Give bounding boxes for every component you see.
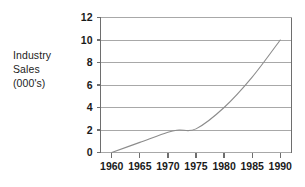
data-series-industry-sales: [112, 40, 281, 153]
x-tick-label-1960: 1960: [100, 160, 124, 172]
data-line-industry-sales: [112, 40, 281, 153]
y-axis-tick-labels: 024681012: [81, 11, 93, 158]
x-tick-label-1980: 1980: [212, 160, 236, 172]
x-tick-label-1965: 1965: [128, 160, 152, 172]
x-tick-label-1985: 1985: [240, 160, 264, 172]
line-chart-plot: 024681012 1960196519701975198019851990: [0, 0, 305, 187]
y-tick-label-8: 8: [87, 56, 93, 68]
x-tick-label-1970: 1970: [156, 160, 180, 172]
y-tick-label-0: 0: [87, 146, 93, 158]
y-tick-label-12: 12: [81, 11, 93, 23]
y-tick-label-4: 4: [87, 101, 93, 113]
gridlines: [101, 18, 292, 153]
y-tick-label-6: 6: [87, 79, 93, 91]
chart-figure: Industry Sales (000's) 024681012 1960196…: [0, 0, 305, 187]
x-tick-label-1990: 1990: [269, 160, 293, 172]
x-axis-tick-labels: 1960196519701975198019851990: [100, 160, 292, 172]
x-tick-label-1975: 1975: [184, 160, 208, 172]
x-axis-ticks: [112, 153, 281, 158]
y-tick-label-10: 10: [81, 34, 93, 46]
y-tick-label-2: 2: [87, 124, 93, 136]
